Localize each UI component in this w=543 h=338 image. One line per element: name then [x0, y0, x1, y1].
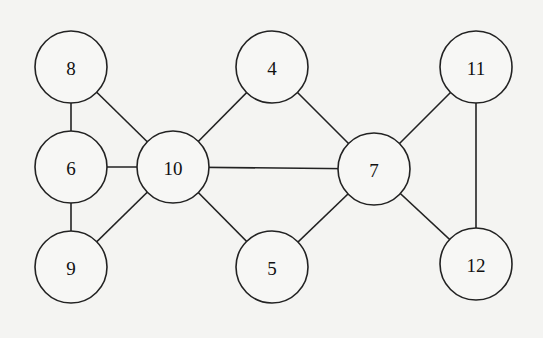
node-7: 7: [338, 133, 410, 205]
node-6: 6: [35, 131, 107, 203]
node-label: 10: [164, 158, 183, 179]
node-label: 5: [267, 258, 277, 279]
node-label: 8: [66, 58, 76, 79]
node-label: 7: [369, 160, 379, 181]
node-4: 4: [236, 31, 308, 103]
graph-diagram: 841161079512: [0, 0, 543, 338]
node-label: 6: [66, 158, 76, 179]
node-5: 5: [236, 231, 308, 303]
node-label: 4: [267, 58, 277, 79]
nodes-layer: 841161079512: [35, 31, 512, 303]
graph-svg: 841161079512: [0, 0, 543, 338]
node-9: 9: [35, 231, 107, 303]
node-11: 11: [440, 31, 512, 103]
node-label: 9: [66, 258, 76, 279]
node-12: 12: [440, 228, 512, 300]
node-label: 12: [467, 255, 486, 276]
node-10: 10: [137, 131, 209, 203]
node-8: 8: [35, 31, 107, 103]
node-label: 11: [467, 58, 485, 79]
